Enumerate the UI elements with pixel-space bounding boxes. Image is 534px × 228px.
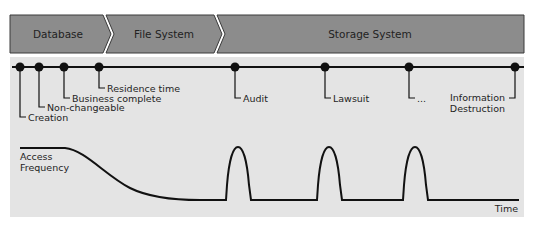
event-dot-audit: [231, 63, 240, 72]
phase-label-file-system: File System: [134, 28, 194, 40]
timeline-panel: [10, 57, 524, 217]
event-label-destruction: Destruction: [450, 103, 505, 114]
event-dot-lawsuit: [321, 63, 330, 72]
event-dot-non-changeable: [35, 63, 44, 72]
phase-label-storage-system: Storage System: [328, 28, 412, 40]
phase-band: Database File System Storage System: [10, 15, 524, 53]
event-dot-creation: [16, 63, 25, 72]
event-dot-residence-time: [95, 63, 104, 72]
event-label-audit: Audit: [243, 93, 268, 104]
event-label-information: Information: [450, 92, 505, 103]
phase-label-database: Database: [33, 28, 83, 40]
event-label-lawsuit: Lawsuit: [333, 93, 369, 104]
data-lifecycle-diagram: Database File System Storage System Crea…: [0, 0, 534, 228]
ylabel-frequency: Frequency: [20, 162, 69, 173]
event-label-creation: Creation: [28, 112, 68, 123]
event-label-residence-time: Residence time: [107, 83, 180, 94]
event-label-business-complete: Business complete: [72, 93, 161, 104]
xlabel-time: Time: [494, 203, 518, 214]
event-dot-ellipsis: [405, 63, 414, 72]
event-dot-information-destruction: [511, 63, 520, 72]
event-label-ellipsis: ...: [417, 93, 426, 104]
event-dot-business-complete: [60, 63, 69, 72]
ylabel-access: Access: [20, 151, 53, 162]
